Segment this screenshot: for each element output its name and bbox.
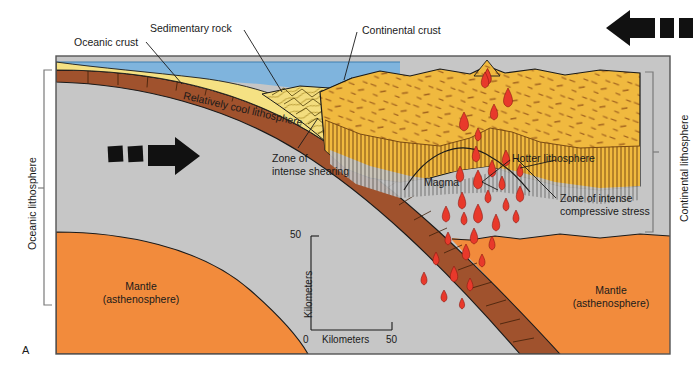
label-zone-compressive-line2: compressive stress (560, 205, 650, 218)
label-oceanic-crust: Oceanic crust (74, 36, 138, 49)
label-mantle-left-line1: Mantle (86, 280, 196, 293)
scale-vertical-max: 50 (290, 229, 301, 240)
label-continental-crust: Continental crust (362, 24, 441, 37)
label-hotter-lithosphere: Hotter lithosphere (512, 152, 595, 165)
scale-horizontal-label: Kilometers (322, 334, 369, 345)
label-continental-lithosphere: Continental lithosphere (678, 115, 690, 222)
label-zone-compressive-line1: Zone of intense (560, 192, 632, 205)
label-magma: Magma (424, 176, 459, 189)
panel-label: A (22, 344, 29, 356)
cross-section-svg (0, 0, 698, 375)
ash-cloud (472, 30, 501, 54)
scale-horizontal-max: 50 (386, 334, 397, 345)
oceanic-lithosphere-bracket (38, 70, 52, 305)
label-mantle-right-line2: (asthenosphere) (556, 297, 666, 310)
figure-canvas: Oceanic crust Sedimentary rock Continent… (0, 0, 698, 375)
label-zone-shearing-line2: intense shearing (272, 165, 349, 178)
continental-plate-motion-arrow (606, 10, 693, 46)
scale-vertical-label: Kilometers (303, 271, 314, 318)
label-mantle-left-line2: (asthenosphere) (86, 293, 196, 306)
label-sedimentary-rock: Sedimentary rock (150, 22, 232, 35)
label-zone-shearing-line1: Zone of (272, 152, 308, 165)
label-mantle-right-line1: Mantle (556, 284, 666, 297)
scale-horizontal-min: 0 (303, 334, 309, 345)
label-oceanic-lithosphere: Oceanic lithosphere (26, 157, 38, 250)
